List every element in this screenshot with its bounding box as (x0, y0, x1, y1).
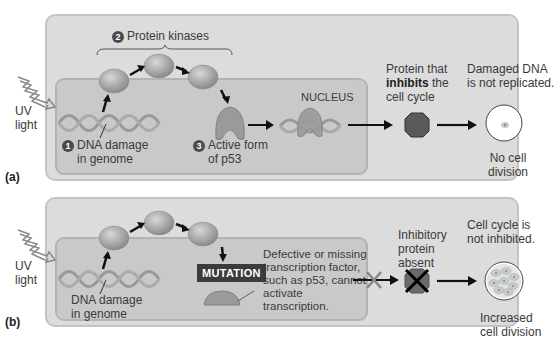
defect-description: Defective or missing transcription facto… (263, 248, 367, 313)
blocked-arrow (353, 270, 403, 290)
outcome-a-bottom: No celldivision (488, 151, 528, 179)
dna-damage-label: DNA damagein genome (71, 293, 142, 321)
step3-label: 3Active form of p53 (193, 138, 268, 166)
mutation-badge: MUTATION (197, 264, 266, 282)
panel-a-label: (a) (5, 170, 20, 184)
outcome-a-top: Damaged DNAis not replicated. (467, 62, 554, 90)
nucleus-label: NUCLEUS (301, 90, 354, 104)
step-number-2: 2 (112, 31, 124, 43)
arrow (437, 120, 482, 130)
inhibitor-protein-octagon (404, 112, 430, 138)
step-number-1: 1 (62, 140, 74, 152)
dividing-cells-icon (484, 261, 524, 301)
uv-light-label: UVlight (15, 259, 37, 287)
dna-helix (57, 108, 177, 138)
arrow (248, 120, 278, 130)
p53-bound-dna (280, 104, 350, 144)
panel-b-label: (b) (5, 315, 20, 329)
arrow (437, 276, 482, 286)
inhibitory-absent-label: Inhibitoryproteinabsent (398, 228, 447, 270)
outcome-b-bottom: Increasedcell division (480, 311, 541, 339)
outcome-b-top: Cell cycle isnot inhibited. (467, 218, 535, 246)
defective-p53-protein (200, 285, 260, 315)
step2-label: 2Protein kinases (112, 29, 209, 43)
dna-helix (57, 264, 177, 294)
inhibitor-protein-label: Protein that inhibits the cell cycle (386, 62, 449, 104)
absent-inhibitor-icon (404, 268, 430, 294)
uv-light-label: UVlight (15, 104, 37, 132)
step-number-3: 3 (193, 140, 205, 152)
step1-label: 1DNA damage in genome (62, 138, 148, 166)
single-cell-icon (484, 103, 524, 143)
